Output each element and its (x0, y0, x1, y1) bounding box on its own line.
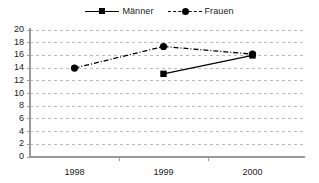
line-chart: Männer Frauen 02468101214161820 19981999… (0, 0, 319, 183)
x-tick-label: 1998 (55, 168, 95, 177)
gridlines (30, 30, 305, 157)
dashed-line-circle-marker-icon (168, 7, 202, 16)
series-lines (75, 47, 253, 74)
x-tick-label: 1999 (144, 168, 184, 177)
y-tick-label: 16 (2, 50, 24, 59)
plot-canvas (0, 20, 319, 183)
y-tick-label: 12 (2, 76, 24, 85)
y-tick-label: 20 (2, 25, 24, 34)
legend-label-frauen: Frauen (205, 7, 234, 16)
solid-line-square-marker-icon (85, 7, 119, 16)
y-tick-label: 8 (2, 101, 24, 110)
y-tick-label: 14 (2, 63, 24, 72)
y-tick-label: 6 (2, 114, 24, 123)
legend-item-frauen: Frauen (168, 7, 234, 16)
y-tick-label: 18 (2, 38, 24, 47)
x-tick-label: 2000 (233, 168, 273, 177)
x-tick-marks (119, 157, 208, 161)
y-tick-label: 2 (2, 139, 24, 148)
y-tick-label: 4 (2, 127, 24, 136)
plot-area: 02468101214161820 199819992000 (0, 20, 319, 183)
legend-item-maenner: Männer (85, 7, 153, 16)
y-tick-label: 0 (2, 152, 24, 161)
chart-legend: Männer Frauen (0, 2, 319, 20)
y-tick-label: 10 (2, 89, 24, 98)
legend-label-maenner: Männer (122, 7, 153, 16)
